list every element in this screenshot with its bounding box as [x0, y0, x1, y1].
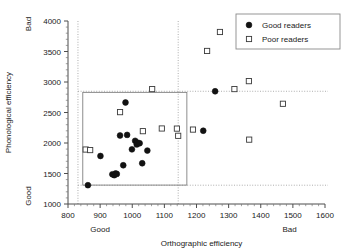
data-point-good-reader: [114, 171, 120, 177]
data-point-good-reader: [144, 148, 150, 154]
x-axis-title: Orthographic efficiency: [161, 239, 243, 248]
data-point-poor-reader: [217, 29, 222, 34]
data-point-good-reader: [98, 153, 104, 159]
data-point-good-reader: [124, 132, 130, 138]
x-axis: 8009001000110012001300140015001600: [61, 204, 334, 220]
data-point-good-reader: [85, 182, 91, 188]
y-tick-label: 4000: [43, 17, 61, 26]
data-point-poor-reader: [150, 86, 155, 91]
data-point-poor-reader: [246, 79, 251, 84]
x-axis-high-label: Bad: [283, 225, 297, 234]
data-point-good-reader: [117, 133, 123, 139]
data-point-poor-reader: [247, 137, 252, 142]
data-point-good-reader: [129, 146, 135, 152]
y-axis-low-label: Good: [24, 186, 33, 206]
y-tick-label: 2500: [43, 109, 61, 118]
y-tick-label: 3500: [43, 48, 61, 57]
data-point-poor-reader: [176, 133, 181, 138]
data-point-good-reader: [200, 128, 206, 134]
data-point-poor-reader: [88, 147, 93, 152]
y-tick-label: 2000: [43, 139, 61, 148]
x-tick-label: 1500: [284, 211, 302, 220]
data-point-good-reader: [212, 88, 218, 94]
y-tick-label: 1500: [43, 170, 61, 179]
x-tick-label: 1200: [188, 211, 206, 220]
x-tick-label: 1400: [252, 211, 270, 220]
legend-marker-good-readers: [246, 22, 252, 28]
legend-label-good-readers: Good readers: [262, 21, 311, 30]
data-point-good-reader: [120, 162, 126, 168]
x-tick-label: 1600: [316, 211, 334, 220]
data-point-poor-reader: [159, 126, 164, 131]
legend-marker-poor-readers: [246, 36, 251, 41]
y-axis-high-label: Bad: [24, 17, 33, 31]
data-point-good-reader: [137, 140, 143, 146]
data-point-poor-reader: [117, 110, 122, 115]
data-point-poor-reader: [280, 101, 285, 106]
scatter-plot-figure: 8009001000110012001300140015001600 10001…: [0, 0, 346, 252]
x-tick-label: 900: [93, 211, 107, 220]
y-axis-title: Phonological efficiency: [4, 72, 13, 153]
y-tick-label: 1000: [43, 200, 61, 209]
data-point-poor-reader: [190, 127, 195, 132]
series-good-readers: [85, 88, 218, 188]
data-point-poor-reader: [205, 48, 210, 53]
legend-label-poor-readers: Poor readers: [262, 35, 308, 44]
y-axis: 1000150020002500300035004000: [43, 17, 68, 209]
y-tick-label: 3000: [43, 78, 61, 87]
data-point-good-reader: [123, 100, 129, 106]
x-tick-label: 1000: [123, 211, 141, 220]
data-point-poor-reader: [140, 129, 145, 134]
chart-legend: Good readersPoor readers: [236, 14, 340, 49]
x-tick-label: 1100: [156, 211, 174, 220]
plot-canvas: 8009001000110012001300140015001600 10001…: [0, 0, 346, 252]
x-axis-low-label: Good: [90, 225, 110, 234]
data-point-poor-reader: [232, 86, 237, 91]
data-point-poor-reader: [174, 126, 179, 131]
x-tick-label: 800: [61, 211, 75, 220]
data-point-good-reader: [139, 160, 145, 166]
x-tick-label: 1300: [220, 211, 238, 220]
